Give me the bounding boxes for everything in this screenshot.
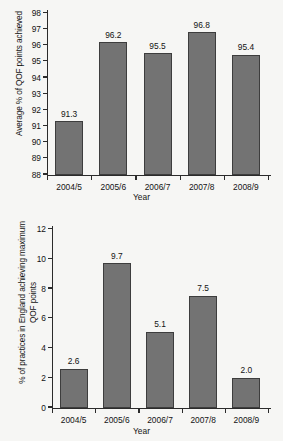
y-tick (48, 287, 52, 288)
bar (188, 32, 216, 174)
x-axis-title: Year (0, 192, 283, 202)
x-tick (135, 176, 136, 180)
bar (55, 121, 83, 174)
y-tick (43, 76, 47, 77)
y-tick-label: 6 (41, 313, 46, 323)
x-category-label: 2007/8 (189, 182, 215, 192)
y-tick (48, 317, 52, 318)
y-tick-label: 90 (32, 137, 41, 147)
y-tick (43, 157, 47, 158)
x-tick (91, 176, 92, 180)
x-tick (268, 176, 269, 180)
x-tick (268, 409, 269, 413)
x-category-label: 2004/5 (56, 182, 82, 192)
x-tick (95, 409, 96, 413)
x-axis-line (47, 175, 271, 176)
x-tick (52, 409, 53, 413)
y-tick (43, 28, 47, 29)
y-tick-label: 2 (41, 373, 46, 383)
x-category-label: 2008/9 (233, 182, 259, 192)
y-tick-label: 8 (41, 284, 46, 294)
x-category-label: 2006/7 (145, 182, 171, 192)
y-tick (43, 109, 47, 110)
y-tick-label: 94 (32, 73, 41, 83)
figure-page: Average % of QOF points achieved 8889909… (0, 0, 283, 441)
x-tick (182, 409, 183, 413)
y-axis-line (47, 10, 48, 176)
bar-chart-practices-max-qof-points: % of practices in England achieving maxi… (0, 214, 283, 441)
y-tick-label: 12 (37, 224, 46, 234)
y-tick (48, 228, 52, 229)
y-tick-label: 89 (32, 153, 41, 163)
bar (99, 42, 127, 175)
y-tick-label: 93 (32, 89, 41, 99)
bar (189, 296, 217, 408)
plot-area: 024681012 2004/52005/62006/72007/82008/9… (52, 229, 268, 409)
x-category-label: 2006/7 (147, 415, 173, 425)
plot-area: 8889909192939495969798 2004/52005/62006/… (47, 13, 268, 176)
bar-value-label: 2.0 (241, 365, 253, 375)
y-tick (43, 60, 47, 61)
x-axis-title: Year (0, 426, 283, 436)
x-tick (138, 409, 139, 413)
bar-value-label: 5.1 (154, 319, 166, 329)
x-category-label: 2005/6 (100, 182, 126, 192)
y-tick (48, 377, 52, 378)
bar-value-label: 95.4 (238, 42, 254, 52)
x-tick (225, 409, 226, 413)
y-tick-label: 91 (32, 121, 41, 131)
y-tick-label: 98 (32, 8, 41, 18)
y-tick (43, 141, 47, 142)
x-tick (224, 176, 225, 180)
y-tick (48, 258, 52, 259)
bar-value-label: 95.5 (149, 41, 165, 51)
y-tick-label: 0 (41, 403, 46, 413)
y-tick-label: 92 (32, 105, 41, 115)
y-tick (48, 347, 52, 348)
y-tick (43, 125, 47, 126)
y-axis-title: % of practices in England achieving maxi… (18, 215, 39, 391)
y-tick (43, 12, 47, 13)
y-axis-line (52, 226, 53, 409)
x-tick (180, 176, 181, 180)
x-category-label: 2008/9 (234, 415, 260, 425)
bar-value-label: 91.3 (61, 109, 77, 119)
y-tick-label: 95 (32, 56, 41, 66)
bar (103, 263, 131, 407)
y-tick-label: 97 (32, 24, 41, 34)
y-tick-label: 10 (37, 254, 46, 264)
bar-value-label: 96.2 (105, 30, 121, 40)
x-tick (47, 176, 48, 180)
y-tick (43, 44, 47, 45)
y-tick-label: 4 (41, 343, 46, 353)
y-tick-label: 96 (32, 40, 41, 50)
bar (232, 55, 260, 175)
bar (146, 332, 174, 408)
y-tick (43, 93, 47, 94)
bar (60, 369, 88, 408)
y-tick (48, 406, 52, 407)
bar-value-label: 96.8 (194, 20, 210, 30)
x-axis-line (52, 408, 271, 409)
bar (232, 378, 260, 408)
x-category-label: 2005/6 (104, 415, 130, 425)
y-tick-label: 88 (32, 170, 41, 180)
bar (144, 53, 172, 174)
x-category-label: 2004/5 (61, 415, 87, 425)
bar-value-label: 2.6 (68, 356, 80, 366)
y-tick (43, 173, 47, 174)
x-category-label: 2007/8 (190, 415, 216, 425)
bar-value-label: 7.5 (197, 283, 209, 293)
bar-chart-average-qof-points: Average % of QOF points achieved 8889909… (0, 0, 283, 208)
bar-value-label: 9.7 (111, 251, 123, 261)
y-axis-title: Average % of QOF points achieved (15, 0, 24, 149)
